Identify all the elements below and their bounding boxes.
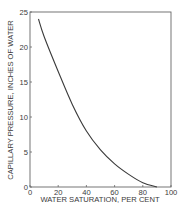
x-axis-label: WATER SATURATION, PER CENT <box>40 195 159 204</box>
chart-container: 020406080100 0510152025 WATER SATURATION… <box>0 0 184 215</box>
x-tick-label: 0 <box>28 188 32 197</box>
y-tick-label: 15 <box>20 78 28 87</box>
y-tick-label: 25 <box>20 8 28 17</box>
y-axis-label: CAPILLARY PRESSURE, INCHES OF WATER <box>6 20 15 180</box>
plot-frame <box>30 12 171 187</box>
y-tick-label: 0 <box>24 183 28 192</box>
y-tick-label: 10 <box>20 113 28 122</box>
y-tick-label: 5 <box>24 148 28 157</box>
x-tick-label: 100 <box>165 188 178 197</box>
y-tick-label: 20 <box>20 43 28 52</box>
data-line <box>38 19 156 187</box>
capillary-pressure-chart: 020406080100 0510152025 WATER SATURATION… <box>0 0 184 215</box>
